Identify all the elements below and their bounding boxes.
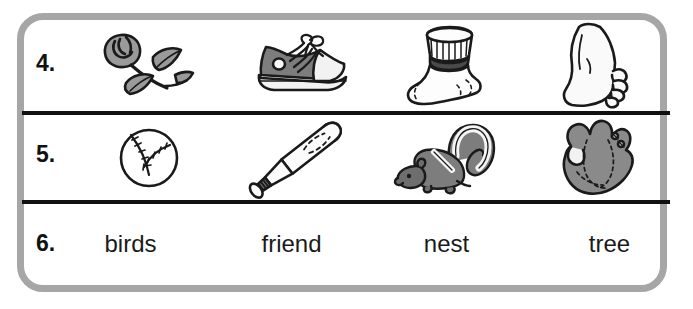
skunk-icon <box>394 122 500 194</box>
worksheet-row-4: 4. <box>22 22 670 111</box>
baseball-bat-icon <box>240 114 356 202</box>
row-number-5: 5. <box>36 141 55 168</box>
row-number-6: 6. <box>36 230 55 257</box>
shoe-icon <box>242 31 354 103</box>
picture-cell-shoe[interactable] <box>223 22 372 111</box>
picture-cell-baseball-bat[interactable] <box>223 115 372 200</box>
row-number-4: 4. <box>36 50 55 77</box>
sock-icon <box>402 25 492 109</box>
picture-cell-rose[interactable] <box>74 22 223 111</box>
word-label: birds <box>104 230 156 258</box>
word-label: friend <box>261 230 321 258</box>
picture-cell-baseball-glove[interactable] <box>521 115 670 200</box>
word-label: nest <box>424 230 469 258</box>
row-5-cells <box>74 115 670 200</box>
word-cell-tree[interactable]: tree <box>521 204 670 284</box>
picture-cell-baseball[interactable] <box>74 115 223 200</box>
baseball-glove-icon <box>553 116 639 200</box>
word-cell-friend[interactable]: friend <box>223 204 372 284</box>
word-cell-birds[interactable]: birds <box>74 204 223 284</box>
rose-icon <box>97 28 201 106</box>
foot-icon <box>558 23 634 111</box>
worksheet-row-5: 5. <box>22 115 670 200</box>
row-6-cells: birds friend nest tree <box>74 204 670 284</box>
worksheet: 4. <box>0 0 693 309</box>
picture-cell-sock[interactable] <box>372 22 521 111</box>
picture-cell-foot[interactable] <box>521 22 670 111</box>
worksheet-row-6: 6. birds friend nest tree <box>22 204 670 284</box>
baseball-icon <box>118 127 180 189</box>
row-4-cells <box>74 22 670 111</box>
picture-cell-skunk[interactable] <box>372 115 521 200</box>
word-label: tree <box>589 230 630 258</box>
word-cell-nest[interactable]: nest <box>372 204 521 284</box>
